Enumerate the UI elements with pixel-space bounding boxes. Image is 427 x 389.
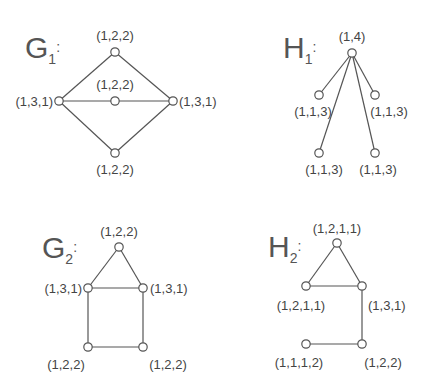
vertex-label: (1,3,1) [368, 298, 406, 313]
vertex-label: (1,1,3) [370, 104, 408, 119]
graph-edge [319, 53, 352, 153]
graph-edge [59, 101, 115, 153]
graph-g1: G1:(1,2,2)(1,2,2)(1,3,1)(1,3,1)(1,2,2) [15, 28, 216, 177]
graph-vertex [348, 49, 356, 57]
vertex-label: (1,1,3) [305, 162, 343, 177]
vertex-label: (1,1,3) [359, 162, 397, 177]
graph-vertex [371, 91, 379, 99]
graph-vertex [333, 239, 341, 247]
vertex-label: (1,4) [339, 29, 366, 44]
graph-vertex [84, 284, 92, 292]
graph-edge [115, 101, 173, 153]
graph-title: H1: [283, 31, 316, 67]
graph-vertex [139, 343, 147, 351]
vertex-label: (1,3,1) [44, 281, 82, 296]
graph-vertex [315, 149, 323, 157]
vertex-label: (1,2,1,1) [313, 221, 361, 236]
graph-edge [319, 53, 352, 95]
graph-edge [352, 53, 375, 153]
vertex-label: (1,2,2) [364, 355, 402, 370]
graph-vertex [111, 149, 119, 157]
graph-vertex [358, 340, 366, 348]
vertex-label: (1,1,1,2) [275, 355, 323, 370]
vertex-label: (1,3,1) [179, 94, 217, 109]
graph-vertex [302, 282, 310, 290]
graph-vertex [302, 340, 310, 348]
graph-title: G2: [42, 231, 77, 267]
graph-vertex [84, 343, 92, 351]
graph-vertex [371, 149, 379, 157]
graph-h1: H1:(1,4)(1,1,3)(1,1,3)(1,1,3)(1,1,3) [283, 29, 408, 177]
vertex-label: (1,3,1) [15, 94, 53, 109]
vertex-label: (1,2,1,1) [277, 298, 325, 313]
graph-vertex [115, 243, 123, 251]
vertex-label: (1,3,1) [150, 281, 188, 296]
graph-vertex [111, 97, 119, 105]
graph-edge [119, 247, 143, 288]
graph-edge [337, 243, 362, 286]
graph-vertex [358, 282, 366, 290]
vertex-label: (1,2,2) [96, 162, 134, 177]
graph-title: G1: [25, 31, 60, 67]
vertex-label: (1,2,2) [96, 28, 134, 43]
graph-title: H2: [268, 230, 301, 266]
graph-edge [88, 247, 119, 288]
graph-edge [352, 53, 375, 95]
graph-h2: H2:(1,2,1,1)(1,2,1,1)(1,3,1)(1,2,2)(1,1,… [268, 221, 406, 370]
graph-vertex [55, 97, 63, 105]
graph-g2: G2:(1,2,2)(1,3,1)(1,3,1)(1,2,2)(1,2,2) [42, 224, 188, 372]
vertex-label: (1,2,2) [47, 357, 85, 372]
vertex-label: (1,2,2) [96, 77, 134, 92]
graph-edge [306, 243, 337, 286]
graph-vertex [139, 284, 147, 292]
graph-vertex [315, 91, 323, 99]
graph-diagram-canvas: G1:(1,2,2)(1,2,2)(1,3,1)(1,3,1)(1,2,2)H1… [0, 0, 427, 389]
graph-vertex [169, 97, 177, 105]
graph-vertex [111, 48, 119, 56]
vertex-label: (1,2,2) [100, 224, 138, 239]
vertex-label: (1,1,3) [294, 104, 332, 119]
vertex-label: (1,2,2) [149, 357, 187, 372]
